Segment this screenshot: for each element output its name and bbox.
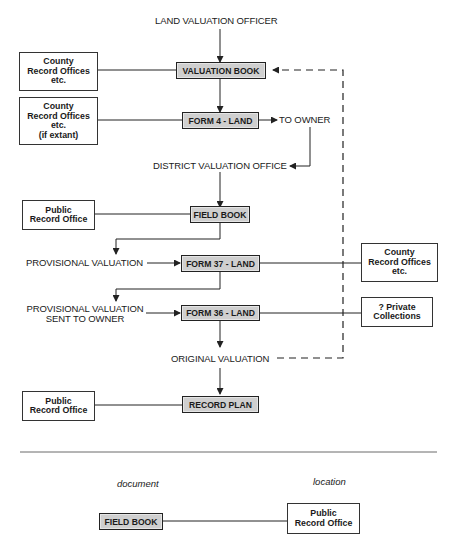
location-county-record-offices-2: County Record Offices etc. (if extant) bbox=[19, 97, 98, 145]
document-form-36-land: FORM 36 - LAND bbox=[181, 305, 260, 321]
document-valuation-book: VALUATION BOOK bbox=[176, 62, 266, 79]
legend-location-example: Public Record Office bbox=[287, 503, 360, 534]
to-owner-label: TO OWNER bbox=[279, 115, 330, 125]
location-county-record-offices-3: County Record Offices etc. bbox=[361, 243, 438, 282]
legend-location-heading: location bbox=[313, 476, 346, 487]
legend-document-heading: document bbox=[117, 478, 159, 489]
provisional-valuation-sent-label: PROVISIONAL VALUATION SENT TO OWNER bbox=[25, 304, 145, 324]
location-county-record-offices-1: County Record Offices etc. bbox=[19, 52, 98, 91]
location-public-record-office-2: Public Record Office bbox=[22, 391, 95, 421]
location-private-collections: ? Private Collections bbox=[361, 297, 433, 327]
document-form-4-land: FORM 4 - LAND bbox=[182, 112, 259, 129]
document-form-37-land: FORM 37 - LAND bbox=[181, 255, 260, 272]
land-valuation-officer-label: LAND VALUATION OFFICER bbox=[155, 16, 278, 26]
location-public-record-office-1: Public Record Office bbox=[22, 200, 95, 230]
district-valuation-office-label: DISTRICT VALUATION OFFICE bbox=[153, 161, 287, 171]
legend-document-example: FIELD BOOK bbox=[99, 513, 163, 530]
provisional-valuation-label: PROVISIONAL VALUATION bbox=[26, 258, 143, 268]
document-field-book: FIELD BOOK bbox=[190, 206, 250, 223]
document-record-plan: RECORD PLAN bbox=[182, 396, 259, 413]
original-valuation-label: ORIGINAL VALUATION bbox=[171, 354, 269, 364]
